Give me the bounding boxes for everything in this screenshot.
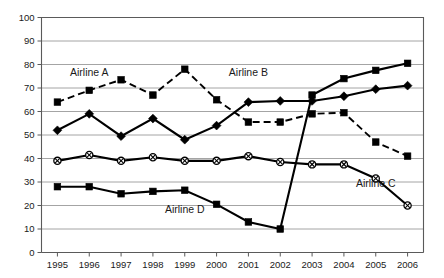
y-tick-label-70: 70	[24, 82, 35, 93]
marker-airline-d-1998	[150, 188, 157, 195]
marker-airline-a-2002	[277, 119, 284, 126]
x-tick-label-1997: 1997	[111, 259, 132, 270]
line-chart: 0102030405060708090100 19951996199719981…	[0, 0, 444, 278]
x-tick-label-1998: 1998	[142, 259, 163, 270]
y-tick-label-100: 100	[19, 12, 35, 23]
marker-airline-b-2002	[276, 97, 285, 106]
chart-plot-area: 0102030405060708090100 19951996199719981…	[0, 0, 444, 278]
x-tick-label-2002: 2002	[270, 259, 291, 270]
y-tick-label-0: 0	[29, 247, 34, 258]
x-tick-label-1999: 1999	[174, 259, 195, 270]
marker-airline-a-2005	[372, 139, 379, 146]
y-tick-label-90: 90	[24, 35, 35, 46]
marker-airline-d-1997	[118, 190, 125, 197]
series-line-airline-b	[57, 86, 407, 140]
marker-airline-d-2001	[245, 219, 252, 226]
series-label-airline-c: Airline C	[356, 177, 396, 189]
marker-airline-b-2005	[371, 85, 380, 94]
x-tick-label-1995: 1995	[47, 259, 68, 270]
marker-airline-a-2006	[404, 153, 411, 160]
marker-airline-b-1995	[53, 126, 62, 135]
marker-airline-d-1996	[86, 183, 93, 190]
marker-airline-b-2004	[340, 92, 349, 101]
x-tick-label-2005: 2005	[365, 259, 386, 270]
x-tick-label-2003: 2003	[302, 259, 323, 270]
marker-airline-a-2001	[245, 119, 252, 126]
y-axis-tick-labels: 0102030405060708090100	[19, 12, 35, 258]
marker-airline-a-1998	[150, 92, 157, 99]
x-tick-label-2000: 2000	[206, 259, 227, 270]
axes-group	[38, 18, 424, 257]
marker-airline-a-2003	[309, 111, 316, 118]
marker-airline-d-2005	[372, 67, 379, 74]
marker-airline-a-1996	[86, 87, 93, 94]
marker-airline-a-1999	[181, 66, 188, 73]
y-tick-label-40: 40	[24, 153, 35, 164]
marker-airline-a-2004	[341, 109, 348, 116]
x-tick-label-2001: 2001	[238, 259, 259, 270]
x-tick-label-2006: 2006	[397, 259, 418, 270]
marker-airline-d-2000	[213, 201, 220, 208]
x-tick-label-1996: 1996	[79, 259, 100, 270]
marker-airline-a-1997	[118, 76, 125, 83]
marker-airline-a-1995	[54, 99, 61, 106]
marker-airline-b-2006	[403, 81, 412, 90]
marker-airline-d-2003	[309, 92, 316, 99]
y-tick-label-20: 20	[24, 200, 35, 211]
series-label-airline-b: Airline B	[229, 66, 268, 78]
series-label-airline-d: Airline D	[165, 203, 205, 215]
y-tick-label-10: 10	[24, 223, 35, 234]
gridlines-group	[42, 18, 424, 253]
marker-airline-d-1995	[54, 183, 61, 190]
y-tick-label-80: 80	[24, 59, 35, 70]
series-markers-group	[53, 60, 412, 232]
y-tick-label-60: 60	[24, 106, 35, 117]
marker-airline-d-1999	[181, 187, 188, 194]
marker-airline-a-2000	[213, 96, 220, 103]
marker-airline-d-2004	[341, 75, 348, 82]
y-tick-label-50: 50	[24, 129, 35, 140]
x-axis-tick-labels: 1995199619971998199920002001200220032004…	[47, 259, 418, 270]
marker-airline-d-2006	[404, 60, 411, 67]
x-tick-label-2004: 2004	[333, 259, 354, 270]
y-tick-label-30: 30	[24, 176, 35, 187]
marker-airline-d-2002	[277, 226, 284, 233]
series-label-airline-a: Airline A	[70, 66, 109, 78]
